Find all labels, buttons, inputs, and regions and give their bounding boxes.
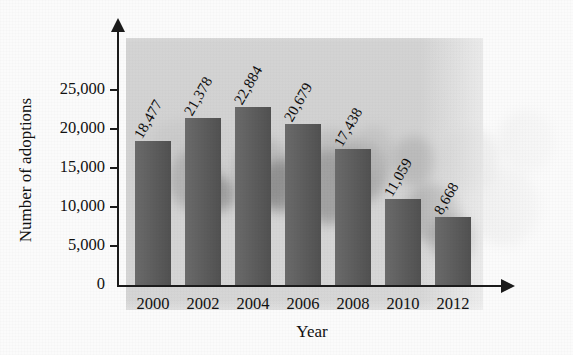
y-axis-tick <box>110 206 117 208</box>
chart-figure: 18,47721,37822,88420,67917,43811,0598,66… <box>0 0 573 355</box>
bar-shading <box>435 217 471 285</box>
bar <box>135 141 171 285</box>
y-axis-tick-label: 0 <box>33 274 105 294</box>
bar-shading <box>185 118 221 285</box>
bar-shading <box>235 107 271 285</box>
bar <box>235 107 271 285</box>
x-axis-tick-label: 2002 <box>175 294 231 314</box>
x-axis-tick-label: 2004 <box>225 294 281 314</box>
y-axis-line <box>117 30 119 287</box>
bar-shading <box>135 141 171 285</box>
y-axis-tick-label: 20,000 <box>33 118 105 138</box>
y-axis-tick <box>110 245 117 247</box>
y-axis-tick <box>110 89 117 91</box>
y-axis-tick-label: 10,000 <box>33 196 105 216</box>
bar <box>435 217 471 285</box>
bar-shading <box>385 199 421 285</box>
x-axis-line <box>117 285 505 287</box>
x-axis-tick-label: 2012 <box>425 294 481 314</box>
x-axis-arrow-icon <box>501 279 515 293</box>
x-axis-tick-label: 2000 <box>125 294 181 314</box>
bar <box>335 149 371 285</box>
y-axis-arrow-icon <box>111 18 125 32</box>
y-axis-title: Number of adoptions <box>16 70 36 270</box>
y-axis-tick <box>110 167 117 169</box>
y-axis-tick <box>110 128 117 130</box>
bar-shading <box>285 124 321 285</box>
y-axis-tick-label: 25,000 <box>33 79 105 99</box>
x-axis-tick-label: 2006 <box>275 294 331 314</box>
y-axis-tick-label: 15,000 <box>33 157 105 177</box>
y-axis-tick-label: 5,000 <box>33 235 105 255</box>
x-axis-title: Year <box>187 322 437 342</box>
bar <box>385 199 421 285</box>
bar-shading <box>335 149 371 285</box>
bar <box>185 118 221 285</box>
x-axis-tick-label: 2010 <box>375 294 431 314</box>
photo-fade-top <box>0 0 573 42</box>
bar <box>285 124 321 285</box>
x-axis-tick-label: 2008 <box>325 294 381 314</box>
